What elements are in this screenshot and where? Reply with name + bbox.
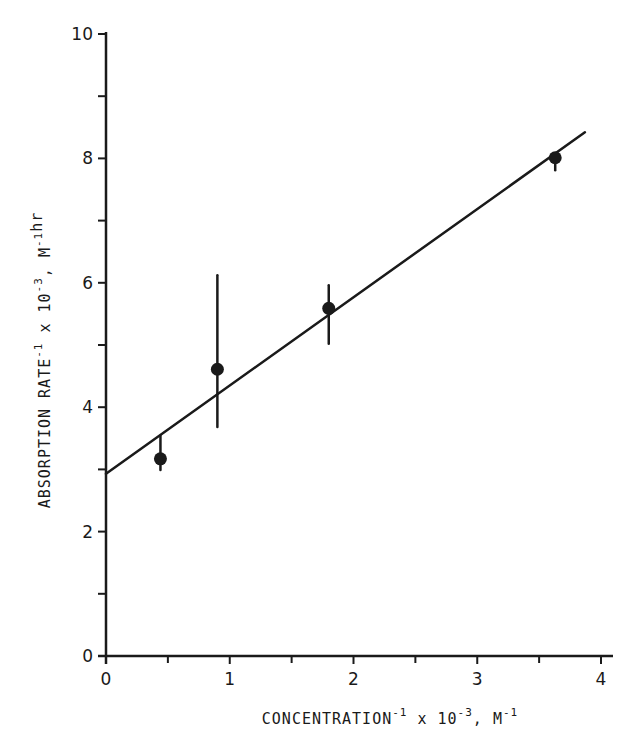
fit-line (106, 132, 585, 473)
x-axis: 01234 (98, 656, 613, 689)
x-axis-title: CONCENTRATION-1 x 10-3, M-1 (262, 706, 518, 728)
y-axis-title-mid: x 10 (36, 292, 54, 342)
y-axis: 0246810 (71, 24, 106, 666)
x-tick-label: 0 (101, 669, 112, 689)
y-tick-label: 8 (82, 148, 93, 168)
x-tick-label: 1 (224, 669, 235, 689)
y-tick-label: 0 (82, 646, 93, 666)
y-tick-label: 10 (71, 24, 93, 44)
y-axis-title-sup3: -1 (32, 232, 45, 247)
data-point (211, 363, 224, 376)
x-axis-title-main: CONCENTRATION (262, 710, 392, 728)
y-tick-label: 4 (82, 397, 93, 417)
data-point (549, 151, 562, 164)
lineweaver-burk-plot: 01234 0246810 CONCENTRATION-1 x 10-3, M-… (0, 0, 642, 750)
y-axis-title-sup2: -3 (32, 277, 45, 292)
x-tick-label: 4 (596, 669, 607, 689)
x-tick-label: 3 (472, 669, 483, 689)
y-axis-title-unit: , M (36, 247, 54, 277)
x-axis-title-sup2: -3 (458, 706, 473, 719)
y-axis-title-tail: hr (28, 212, 46, 232)
y-tick-label: 6 (82, 273, 93, 293)
y-tick-label: 2 (82, 522, 93, 542)
x-axis-title-sup3: -1 (503, 706, 518, 719)
data-point (322, 302, 335, 315)
y-axis-title-sup1: -1 (32, 343, 45, 358)
plot-area (106, 132, 585, 473)
x-tick-label: 2 (348, 669, 359, 689)
x-axis-title-mid: x 10 (407, 710, 457, 728)
x-axis-title-sup1: -1 (392, 706, 407, 719)
y-axis-title-main: ABSORPTION RATE (36, 358, 54, 508)
data-point (154, 452, 167, 465)
y-axis-title: ABSORPTION RATE-1 x 10-3, M-1hr (28, 212, 54, 509)
x-axis-title-unit: , M (473, 710, 503, 728)
